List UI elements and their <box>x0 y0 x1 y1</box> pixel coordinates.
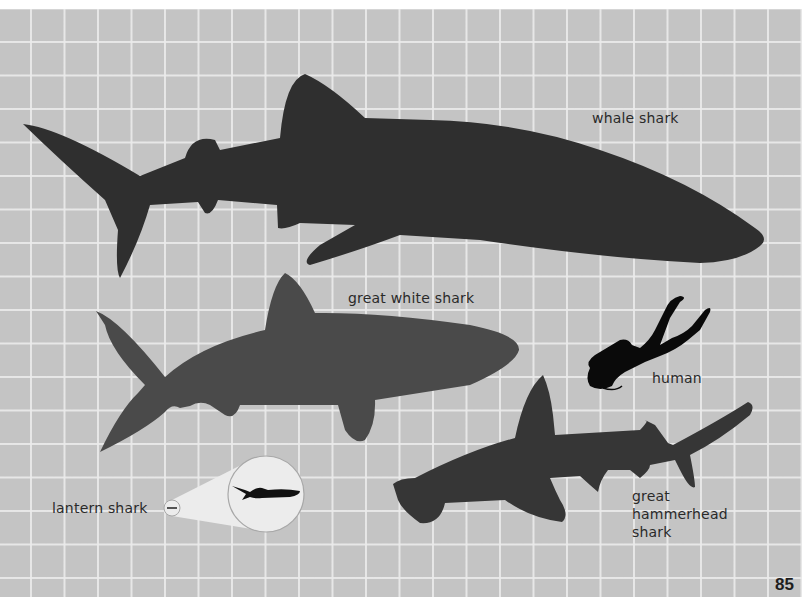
label-great-hammerhead-line1: great <box>632 488 670 505</box>
whale-shark-silhouette <box>23 74 764 278</box>
hammerhead-shark-silhouette <box>393 375 753 523</box>
label-whale-shark: whale shark <box>592 110 679 127</box>
label-great-white-shark: great white shark <box>348 290 474 307</box>
label-human: human <box>652 370 702 387</box>
label-great-hammerhead-line3: shark <box>632 524 672 541</box>
page-number: 85 <box>775 575 794 595</box>
label-great-hammerhead-line2: hammerhead <box>632 506 728 523</box>
label-lantern-shark: lantern shark <box>52 500 148 517</box>
lantern-shark-magnifier <box>164 456 304 532</box>
